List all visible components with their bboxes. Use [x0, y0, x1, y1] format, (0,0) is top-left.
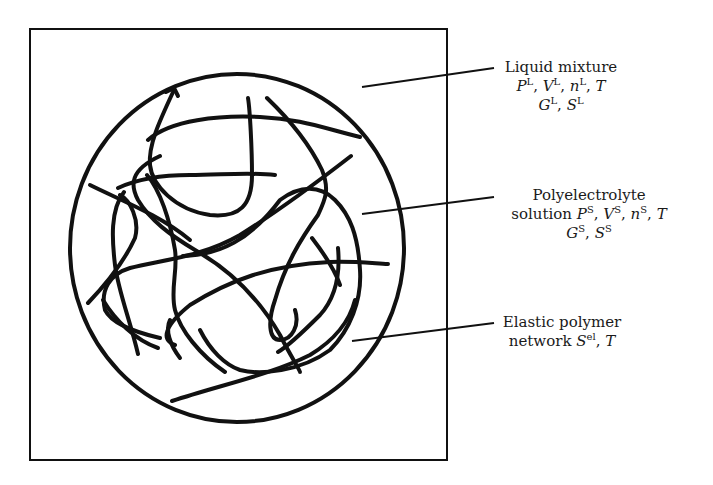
label-network-vars: network Sel, T	[498, 332, 626, 351]
leader-line-network	[352, 323, 494, 341]
container-box	[30, 29, 447, 460]
leader-line-liquid	[362, 68, 494, 87]
polymer-strand	[150, 90, 252, 215]
label-liquid-mixture: Liquid mixture PL, VL, nL, T GL, SL	[498, 58, 624, 115]
polymer-strand	[267, 98, 326, 340]
leader-lines	[352, 68, 494, 341]
polymer-strand	[148, 117, 360, 140]
leader-line-solution	[362, 197, 494, 214]
label-polyelectrolyte-solution: Polyelectrolyte solution PS, VS, nS, T G…	[498, 186, 680, 243]
label-solution-vars: solution PS, VS, nS, T	[498, 205, 680, 224]
label-liquid-title: Liquid mixture	[498, 58, 624, 77]
label-liquid-energies: GL, SL	[498, 96, 624, 115]
label-solution-energies: GS, SS	[498, 224, 680, 243]
polymer-strand	[168, 320, 180, 358]
label-solution-title: Polyelectrolyte	[498, 186, 680, 205]
polymer-strand	[147, 175, 225, 372]
label-elastic-network: Elastic polymer network Sel, T	[498, 313, 626, 351]
label-network-title: Elastic polymer	[498, 313, 626, 332]
label-liquid-vars: PL, VL, nL, T	[498, 77, 624, 96]
polymer-network	[88, 88, 388, 401]
polymer-strand	[90, 185, 190, 240]
